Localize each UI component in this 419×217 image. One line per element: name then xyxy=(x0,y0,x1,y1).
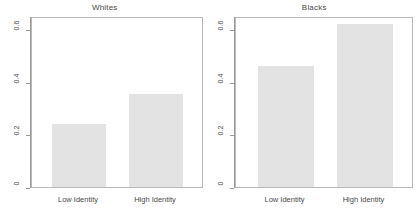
x-tick-label-blacks-low: Low Identity xyxy=(264,195,304,204)
y-tick-right-label-0: 0 xyxy=(216,176,223,192)
y-tick-2 xyxy=(26,83,30,84)
y-tick-label-3: 0.6 xyxy=(13,18,20,34)
bar-blacks-high-identity xyxy=(337,24,393,187)
y-tick-right-label-1: 0.2 xyxy=(216,123,223,139)
bar-whites-low-identity xyxy=(52,124,106,187)
y-tick-right-label-3: 0.6 xyxy=(216,18,223,34)
bar-blacks-low-identity xyxy=(258,66,314,187)
y-tick-0 xyxy=(26,188,30,189)
y-tick-1 xyxy=(26,135,30,136)
panel-title-whites: Whites xyxy=(0,3,210,12)
panel-title-blacks: Blacks xyxy=(210,3,419,12)
y-tick-right-1 xyxy=(230,135,234,136)
figure-panel-chart: Whites Mean Level of Alienation 0 0.2 0.… xyxy=(0,0,419,217)
y-tick-right-3 xyxy=(230,30,234,31)
y-tick-right-2 xyxy=(230,83,234,84)
x-tick-label-blacks-high: High Identity xyxy=(343,195,385,204)
y-tick-right-0 xyxy=(230,188,234,189)
x-tick-label-whites-low: Low Identity xyxy=(58,195,98,204)
x-tick-label-whites-high: High Identity xyxy=(134,195,176,204)
y-tick-right-label-2: 0.4 xyxy=(216,70,223,86)
plot-area-whites xyxy=(31,17,203,188)
panel-blacks: Blacks 0 0.2 0.4 0.6 Low Identity High I… xyxy=(210,0,419,217)
panel-whites: Whites Mean Level of Alienation 0 0.2 0.… xyxy=(0,0,210,217)
y-tick-label-2: 0.4 xyxy=(13,70,20,86)
y-tick-label-1: 0.2 xyxy=(13,123,20,139)
y-tick-3 xyxy=(26,30,30,31)
bar-whites-high-identity xyxy=(129,94,183,187)
plot-area-blacks xyxy=(235,17,413,188)
y-tick-label-0: 0 xyxy=(13,176,20,192)
